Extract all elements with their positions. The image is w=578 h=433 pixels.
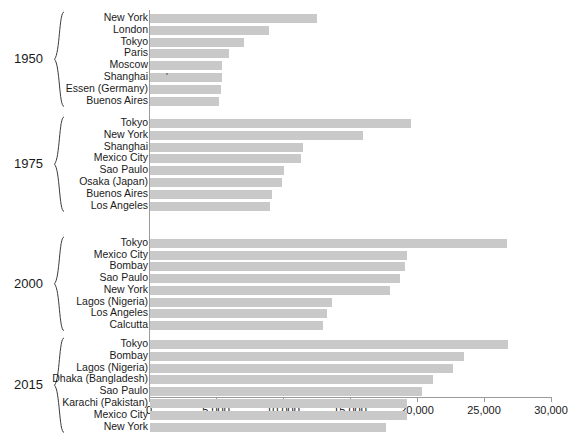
bar-category-label: Essen (Germany) [66,83,148,94]
bar-row: New York [0,13,578,24]
bar [150,61,222,70]
bar [150,190,272,199]
bar-row: Buenos Aires [0,96,578,107]
bar-category-label: Tokyo [121,237,148,248]
bar-category-label: Los Angeles [91,307,148,318]
bar-row: Los Angeles [0,201,578,212]
bar-row: Shanghai [0,142,578,153]
bar-category-label: Moscow [109,59,148,70]
bar [150,239,507,248]
bar-category-label: Sao Paulo [100,164,148,175]
bar-row: Mexico City [0,410,578,421]
bar-row: Bombay [0,261,578,272]
bar-category-label: Tokyo [121,36,148,47]
bar-category-label: Tokyo [121,117,148,128]
bar [150,423,386,432]
bar-category-label: Bombay [109,350,148,361]
bar-category-label: Calcutta [109,319,148,330]
bar [150,97,219,106]
bar-category-label: Karachi (Pakistan) [62,397,148,408]
bar-row: Paris [0,48,578,59]
bar [150,131,363,140]
bar-category-label: Los Angeles [91,200,148,211]
bar-row: Los Angeles [0,308,578,319]
bar [150,262,405,271]
bar [150,119,411,128]
bar-category-label: Mexico City [94,409,148,420]
bar [150,321,323,330]
bar-category-label: Shanghai [104,71,148,82]
bar [150,85,221,94]
bar [150,49,229,58]
bar-row: New York [0,422,578,433]
bar [150,26,269,35]
bar-row: Tokyo [0,339,578,350]
bar [150,251,407,260]
year-group-2000: 2000TokyoMexico CityBombaySao PauloNew Y… [0,238,578,332]
bar-category-label: Paris [124,47,148,58]
bar-category-label: Buenos Aires [86,188,148,199]
bar [150,364,453,373]
bar-category-label: Mexico City [94,152,148,163]
bar-category-label: New York [104,129,148,140]
bar-category-label: New York [104,421,148,432]
bar-category-label: Sao Paulo [100,272,148,283]
bar-category-label: Dhaka (Bangladesh) [52,373,148,384]
bar [150,375,433,384]
bar-row: Karachi (Pakistan) [0,398,578,409]
bar [150,73,222,82]
bar [150,352,464,361]
bar-category-label: Lagos (Nigeria) [76,362,148,373]
bar-category-label: Sao Paulo [100,385,148,396]
bar-category-label: Mexico City [94,249,148,260]
bar-category-label: Bombay [109,260,148,271]
bar-category-label: London [113,24,148,35]
bar [150,387,422,396]
bar-category-label: Osaka (Japan) [79,176,148,187]
bar-row: Sao Paulo [0,273,578,284]
bar-row: Tokyo [0,118,578,129]
bar [150,154,301,163]
bar-row: Lagos (Nigeria) [0,297,578,308]
bar-row: Tokyo [0,238,578,249]
bar [150,274,400,283]
year-group-1950: 1950New YorkLondonTokyoParisMoscowShangh… [0,13,578,107]
bar-category-label: Lagos (Nigeria) [76,296,148,307]
bar-row: Mexico City [0,153,578,164]
bar-row: London [0,25,578,36]
bar-category-label: New York [104,284,148,295]
bar-category-label: Tokyo [121,338,148,349]
bar [150,286,390,295]
bar-row: Tokyo [0,37,578,48]
bar-row: Mexico City [0,250,578,261]
bar [150,143,303,152]
bar-category-label: New York [104,12,148,23]
bar [150,399,407,408]
bar [150,178,282,187]
bar-row: New York [0,130,578,141]
bar-category-label: Buenos Aires [86,95,148,106]
year-group-1975: 1975TokyoNew YorkShanghaiMexico CitySao … [0,118,578,212]
bar-row: Calcutta [0,320,578,331]
year-group-2015: 2015TokyoBombayLagos (Nigeria)Dhaka (Ban… [0,339,578,433]
bar [150,202,270,211]
bar-row: Buenos Aires [0,189,578,200]
bar [150,38,244,47]
bar [150,411,407,420]
bar [150,298,332,307]
image-artifact-speck [166,73,168,75]
bar-category-label: Shanghai [104,141,148,152]
bar-row: Dhaka (Bangladesh) [0,374,578,385]
bar [150,166,284,175]
bar-row: Moscow [0,60,578,71]
bar [150,309,327,318]
bar [150,14,317,23]
bar [150,340,508,349]
